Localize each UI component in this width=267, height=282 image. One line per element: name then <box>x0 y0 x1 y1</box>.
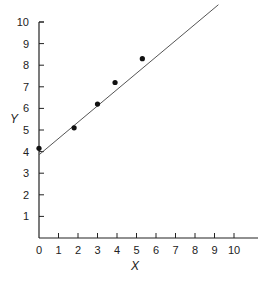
y-tick-label: 3 <box>23 167 29 179</box>
y-axis-label: Y <box>10 112 19 126</box>
data-point <box>112 80 117 85</box>
y-tick-label: 1 <box>23 210 29 222</box>
x-tick-label: 8 <box>192 244 198 256</box>
y-tick-label: 7 <box>23 81 29 93</box>
x-tick-label: 5 <box>133 244 139 256</box>
x-tick-label: 1 <box>55 244 61 256</box>
x-tick-label: 0 <box>36 244 42 256</box>
data-points <box>36 56 145 151</box>
y-tick-label: 9 <box>23 38 29 50</box>
data-point <box>36 146 41 151</box>
y-tick-label: 4 <box>23 146 29 158</box>
x-tick-label: 7 <box>172 244 178 256</box>
y-tick-label: 5 <box>23 124 29 136</box>
y-tick-label: 10 <box>17 16 29 28</box>
data-point <box>95 101 100 106</box>
x-tick-label: 10 <box>228 244 240 256</box>
x-tick-label: 3 <box>94 244 100 256</box>
scatter-chart: 12345678910 012345678910 X Y <box>0 0 267 282</box>
x-tick-label: 9 <box>211 244 217 256</box>
x-axis-label: X <box>130 259 140 273</box>
data-point <box>140 56 145 61</box>
x-axis-ticks: 012345678910 <box>36 233 240 256</box>
x-tick-label: 6 <box>153 244 159 256</box>
x-tick-label: 4 <box>114 244 120 256</box>
y-tick-label: 6 <box>23 102 29 114</box>
y-tick-label: 2 <box>23 189 29 201</box>
y-tick-label: 8 <box>23 59 29 71</box>
axes <box>39 22 258 238</box>
data-point <box>72 125 77 130</box>
x-tick-label: 2 <box>75 244 81 256</box>
regression-line <box>39 5 218 155</box>
y-axis-ticks: 12345678910 <box>17 16 44 222</box>
